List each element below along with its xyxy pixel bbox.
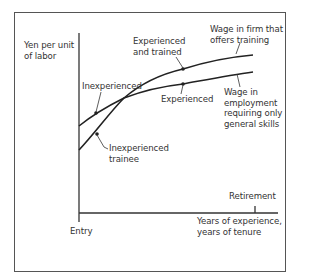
experienced-trained-label: Experienced and trained [133, 36, 185, 57]
y-axis-label: Yen per unit of labor [24, 40, 74, 61]
entry-label: Entry [70, 226, 92, 237]
leader-inexperienced-trainee [97, 135, 108, 149]
leader-experienced [181, 85, 183, 94]
training-firm-curve-label: Wage in firm that offers training [210, 24, 283, 45]
leader-general-skills [237, 74, 240, 87]
leader-inexperienced [96, 92, 101, 112]
x-axis-label: Years of experience, years of tenure [197, 216, 282, 237]
retirement-label: Retirement [229, 191, 276, 202]
experienced-label: Experienced [161, 94, 213, 105]
leader-experienced-trained [176, 57, 183, 68]
inexperienced-label: Inexperienced [82, 81, 142, 92]
general-skills-curve-label: Wage in employment requiring only genera… [224, 87, 282, 129]
inexperienced-trainee-label: Inexperienced trainee [109, 143, 169, 164]
